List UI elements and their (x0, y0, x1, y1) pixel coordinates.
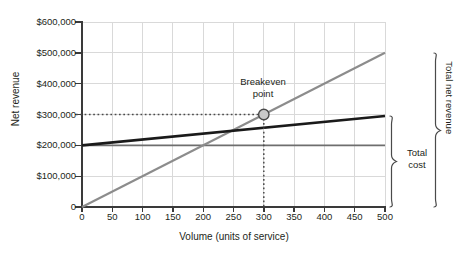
x-tick-250: 250 (226, 212, 242, 222)
y-tick-label: 0 (71, 202, 76, 212)
total-cost-brace-label: Total cost (398, 147, 436, 170)
x-tick-200: 200 (195, 212, 211, 222)
y-tick-label: $300,000 (36, 110, 76, 120)
breakeven-label-line1: Breakeven (221, 76, 305, 88)
x-tick-50: 50 (107, 212, 118, 222)
y-tick-label: $400,000 (36, 79, 76, 89)
y-tick-label: $600,000 (36, 17, 76, 27)
total-cost-label-line2: cost (398, 159, 436, 171)
x-axis-title: Volume (units of service) (148, 232, 320, 242)
x-tick-400: 400 (316, 212, 332, 222)
x-tick-350: 350 (286, 212, 302, 222)
y-axis-title: Net revenue (11, 59, 21, 139)
total-net-revenue-brace (434, 53, 441, 207)
breakeven-label-line2: point (221, 88, 305, 100)
x-tick-150: 150 (165, 212, 181, 222)
breakeven-point-marker (259, 109, 269, 119)
y-tick-label: $100,000 (36, 171, 76, 181)
total-net-revenue-brace-label: Total net revenue (444, 52, 454, 144)
breakeven-point-label: Breakeven point (221, 76, 305, 99)
breakeven-chart: $600,000 $500,000 $400,000 $300,000 $200… (0, 0, 463, 255)
total-cost-brace (390, 116, 397, 207)
x-tick-500: 500 (377, 212, 393, 222)
y-tick-label: $200,000 (36, 141, 76, 151)
x-tick-100: 100 (135, 212, 151, 222)
x-tick-0: 0 (79, 212, 84, 222)
total-cost-label-line1: Total (398, 147, 436, 159)
x-tick-450: 450 (347, 212, 363, 222)
y-tick-label: $500,000 (36, 48, 76, 58)
x-tick-300: 300 (256, 212, 272, 222)
